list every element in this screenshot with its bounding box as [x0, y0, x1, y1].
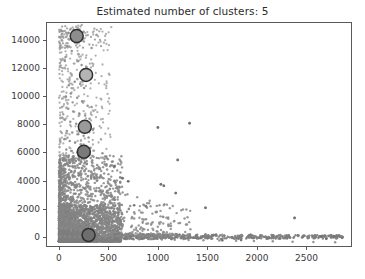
x-tick-label: 500 — [100, 253, 117, 263]
x-tick-mark — [108, 247, 109, 250]
x-tick-label: 2500 — [295, 253, 318, 263]
x-tick-label: 2000 — [245, 253, 268, 263]
y-tick-label: 0 — [34, 232, 40, 242]
scatter-plot-axes — [46, 22, 352, 247]
matplotlib-figure: Estimated number of clusters: 5 02000400… — [0, 0, 365, 279]
x-tick-label: 0 — [56, 253, 62, 263]
x-tick-label: 1000 — [146, 253, 169, 263]
y-tick-label: 2000 — [17, 204, 40, 214]
cluster-center-5 — [82, 229, 95, 242]
y-tick-mark — [43, 152, 46, 153]
y-tick-mark — [43, 124, 46, 125]
y-tick-label: 4000 — [17, 176, 40, 186]
cluster-center-3 — [78, 120, 91, 133]
y-tick-mark — [43, 209, 46, 210]
cluster-center-1 — [70, 30, 83, 43]
y-tick-label: 10000 — [11, 91, 40, 101]
x-tick-mark — [158, 247, 159, 250]
y-tick-mark — [43, 40, 46, 41]
y-tick-mark — [43, 181, 46, 182]
page-title: Estimated number of clusters: 5 — [0, 5, 365, 17]
scatter-points-layer — [46, 22, 352, 247]
x-tick-mark — [257, 247, 258, 250]
x-tick-mark — [306, 247, 307, 250]
y-tick-label: 12000 — [11, 63, 40, 73]
x-tick-label: 1500 — [196, 253, 219, 263]
cluster-center-2 — [80, 68, 93, 81]
y-tick-label: 6000 — [17, 147, 40, 157]
x-tick-mark — [207, 247, 208, 250]
y-tick-label: 8000 — [17, 119, 40, 129]
cluster-center-4 — [77, 145, 90, 158]
y-tick-mark — [43, 96, 46, 97]
y-tick-mark — [43, 237, 46, 238]
y-tick-label: 14000 — [11, 35, 40, 45]
x-tick-mark — [59, 247, 60, 250]
y-tick-mark — [43, 68, 46, 69]
